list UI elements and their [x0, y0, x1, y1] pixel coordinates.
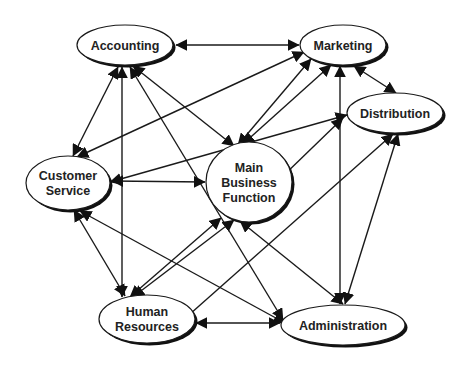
edge-accounting-to-main-business-function	[133, 66, 234, 146]
edge-marketing-to-distribution	[354, 66, 396, 93]
node-human-resources: HumanResources	[99, 295, 198, 346]
node-ellipse	[26, 156, 110, 210]
node-label: Accounting	[91, 39, 160, 53]
node-label: Service	[46, 184, 91, 198]
node-label: Human	[126, 305, 168, 319]
node-label: Resources	[115, 320, 179, 334]
node-customer-service: CustomerService	[26, 156, 113, 213]
edge-customer-service-to-human-resources	[74, 210, 125, 296]
node-accounting: Accounting	[77, 25, 176, 68]
node-distribution: Distribution	[347, 93, 446, 136]
node-label: Function	[223, 191, 276, 205]
edge-marketing-to-customer-service	[77, 52, 304, 157]
edge-distribution-to-administration	[345, 134, 398, 304]
edge-customer-service-to-main-business-function	[112, 181, 205, 182]
node-label: Marketing	[313, 39, 372, 53]
edge-main-business-function-to-human-resources	[130, 218, 221, 297]
edge-main-business-function-to-administration	[240, 221, 343, 304]
node-main-business-function: MainBusinessFunction	[206, 142, 295, 225]
node-label: Main	[235, 161, 263, 175]
node-label: Business	[221, 176, 277, 190]
edge-marketing-to-main-business-function	[238, 59, 311, 145]
node-ellipse	[99, 295, 195, 343]
edge-main-business-function-to-human-resources	[133, 220, 234, 297]
nodes-layer: AccountingMarketingDistributionCustomerS…	[26, 25, 446, 348]
node-marketing: Marketing	[300, 25, 389, 68]
business-function-network-diagram: AccountingMarketingDistributionCustomerS…	[0, 0, 471, 367]
node-administration: Administration	[281, 305, 408, 348]
node-label: Distribution	[360, 107, 430, 121]
edge-accounting-to-customer-service	[73, 67, 118, 156]
node-label: Customer	[39, 169, 97, 183]
node-label: Administration	[299, 319, 387, 333]
